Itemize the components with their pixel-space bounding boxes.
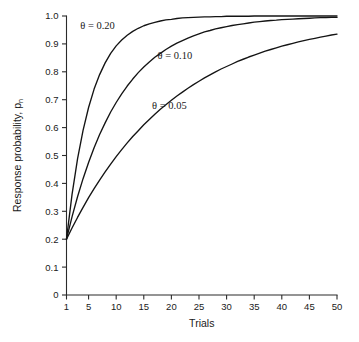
series-annotation: θ = 0.05	[152, 100, 187, 111]
chart-figure: 00.10.20.30.40.50.60.70.80.91.0 15101520…	[0, 0, 359, 342]
x-axis-tick-label: 20	[166, 301, 177, 312]
series-annotation: θ = 0.20	[80, 20, 115, 31]
x-axis-tick-label: 1	[64, 301, 69, 312]
y-axis-tick-label: 0.1	[45, 262, 58, 273]
x-axis-tick-label: 15	[138, 301, 149, 312]
y-axis-tick-label: 0.7	[45, 94, 58, 105]
y-axis-tick-label: 0.5	[45, 150, 58, 161]
x-axis-tick-label: 45	[304, 301, 315, 312]
x-axis-tick-label: 10	[111, 301, 122, 312]
x-axis-tick-label: 50	[332, 301, 343, 312]
x-axis-tick-label: 30	[221, 301, 232, 312]
response-probability-line-chart: 00.10.20.30.40.50.60.70.80.91.0 15101520…	[0, 0, 359, 342]
series-annotation: θ = 0.10	[158, 50, 193, 61]
x-axis-tick-label: 5	[86, 301, 91, 312]
y-axis-tick-label: 0.6	[45, 122, 58, 133]
y-axis-tick-label: 0.4	[45, 178, 58, 189]
y-axis-tick-label: 0	[53, 289, 58, 300]
y-axis-tick-label: 0.2	[45, 234, 58, 245]
y-axis-tick-label: 0.8	[45, 66, 58, 77]
y-axis-tick-label: 1.0	[45, 10, 58, 21]
x-axis-tick-label: 40	[277, 301, 288, 312]
y-axis-tick-label: 0.3	[45, 206, 58, 217]
x-axis-title: Trials	[189, 317, 214, 329]
x-axis-tick-label: 35	[249, 301, 260, 312]
y-axis-tick-label: 0.9	[45, 38, 58, 49]
x-axis-tick-label: 25	[194, 301, 205, 312]
